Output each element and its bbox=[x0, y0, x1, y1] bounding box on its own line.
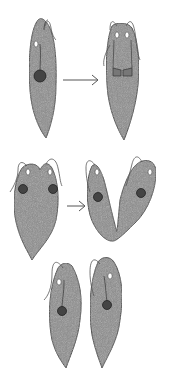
daughter-cell-left bbox=[50, 263, 82, 368]
cell-body bbox=[14, 164, 58, 260]
nucleus-icon bbox=[58, 307, 67, 316]
stage-4-cell bbox=[86, 157, 156, 241]
stage-5-cells bbox=[44, 258, 122, 369]
stage-3-cell bbox=[10, 159, 62, 260]
arrow-2 bbox=[67, 201, 85, 211]
nucleus-icon bbox=[34, 70, 46, 82]
daughter-cell-right bbox=[90, 258, 122, 369]
cell-body bbox=[106, 23, 138, 140]
arrow-1 bbox=[63, 75, 98, 85]
nucleus-icon bbox=[137, 189, 146, 198]
nucleus-icon bbox=[19, 185, 28, 194]
stage-1-cell bbox=[29, 19, 56, 138]
stage-2-cell bbox=[104, 22, 140, 140]
nucleus-icon bbox=[49, 185, 58, 194]
eyespot-icon bbox=[34, 41, 38, 47]
euglena-fission-diagram bbox=[0, 0, 173, 373]
nucleus-icon bbox=[103, 301, 112, 310]
nucleus-icon bbox=[94, 193, 103, 202]
